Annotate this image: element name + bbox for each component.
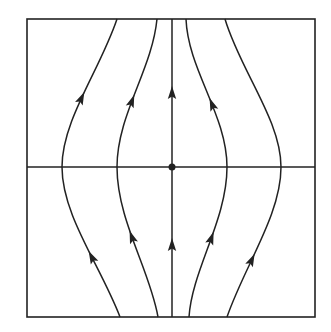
arrowhead-icon xyxy=(206,97,219,112)
fixed-point xyxy=(169,164,176,171)
arrowhead-icon xyxy=(85,249,98,264)
arrowhead-icon xyxy=(126,93,138,108)
arrowhead-icon xyxy=(126,229,138,244)
streamline-outer-right xyxy=(225,19,281,317)
arrowhead-icon xyxy=(126,229,138,244)
arrowheads xyxy=(75,86,258,267)
arrowhead-icon xyxy=(75,90,88,105)
arrowhead-icon xyxy=(245,252,258,267)
arrowhead-icon xyxy=(126,93,138,108)
streamline-outer-left xyxy=(62,19,120,317)
streamline-inner-left xyxy=(117,19,158,317)
arrowhead-icon xyxy=(206,97,219,112)
arrowhead-icon xyxy=(75,90,88,105)
arrowhead-icon xyxy=(205,230,217,245)
phase-portrait-diagram xyxy=(0,0,331,332)
arrowhead-icon xyxy=(245,252,258,267)
fixed-point-dot xyxy=(169,164,176,171)
arrowhead-icon xyxy=(205,230,217,245)
streamline-inner-right xyxy=(186,19,227,317)
arrowhead-icon xyxy=(85,249,98,264)
